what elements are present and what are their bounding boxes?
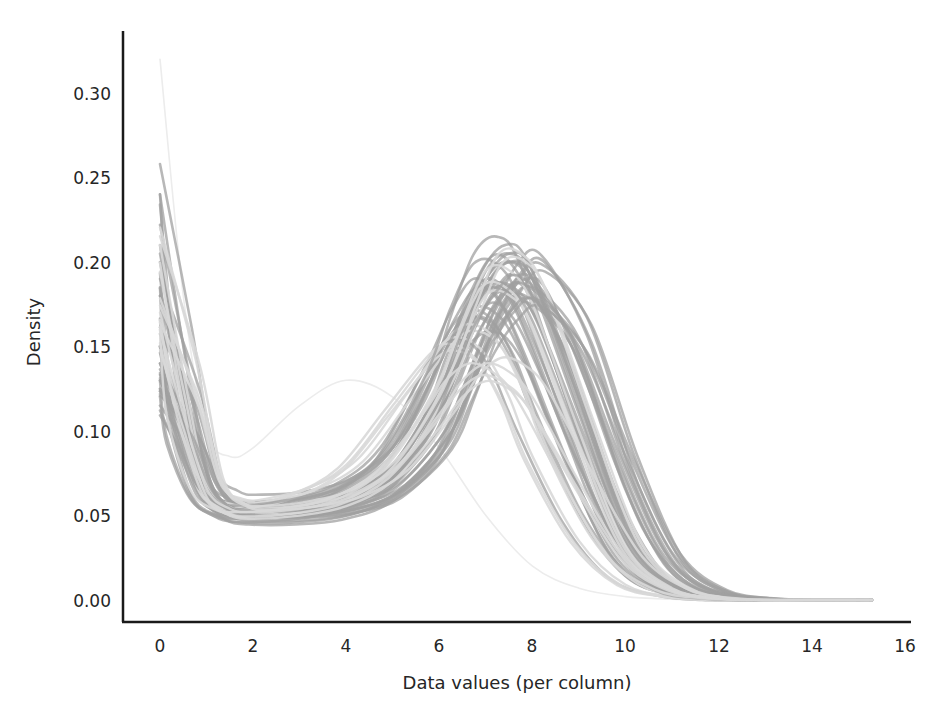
x-axis-title: Data values (per column) (403, 672, 632, 693)
density-curve (160, 343, 868, 600)
x-tick-label: 6 (434, 636, 445, 656)
density-curve (160, 294, 864, 601)
y-tick-label: 0.00 (73, 591, 111, 611)
x-tick-labels: 0 2 4 6 8 10 12 14 16 (155, 636, 916, 656)
density-curve (160, 287, 856, 600)
y-tick-label: 0.30 (73, 84, 111, 104)
y-tick-label: 0.25 (73, 168, 111, 188)
y-axis-title: Density (23, 297, 44, 366)
y-tick-label: 0.05 (73, 506, 111, 526)
y-tick-label: 0.15 (73, 337, 111, 357)
x-tick-label: 10 (614, 636, 636, 656)
x-tick-label: 2 (248, 636, 259, 656)
density-curve (160, 338, 856, 600)
density-curve (160, 313, 872, 601)
density-curves (160, 59, 872, 600)
y-tick-label: 0.10 (73, 422, 111, 442)
y-tick-labels: 0.00 0.05 0.10 0.15 0.20 0.25 0.30 (73, 84, 111, 611)
x-tick-label: 8 (527, 636, 538, 656)
density-curve (160, 164, 872, 600)
x-tick-label: 4 (341, 636, 352, 656)
y-tick-label: 0.20 (73, 253, 111, 273)
density-chart: 0.00 0.05 0.10 0.15 0.20 0.25 0.30 0 2 4… (0, 0, 940, 716)
x-tick-label: 12 (708, 636, 730, 656)
density-curve (160, 310, 872, 601)
x-tick-label: 0 (155, 636, 166, 656)
x-tick-label: 14 (801, 636, 823, 656)
density-curve (160, 350, 872, 600)
x-tick-label: 16 (894, 636, 916, 656)
